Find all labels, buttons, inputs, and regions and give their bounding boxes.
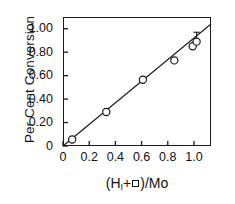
x-axis-title-plus: + [123,175,131,191]
y-tick-label: 0.40 [0,93,58,106]
chart-figure: Per Cent Conversion 00.200.400.600.801.0… [0,0,235,204]
data-point-marker [69,136,76,143]
plot-data-layer [63,17,211,146]
y-tick-label: 0.20 [0,116,58,129]
y-tick-label: 1.00 [0,22,58,35]
data-point-marker [193,38,200,45]
x-tick-label: 0.8 [159,151,176,164]
x-axis-title-open: (H [106,175,121,191]
x-axis-title: (HI+)/Mo [63,175,211,192]
data-point-marker [139,76,146,83]
fit-line [63,24,211,146]
x-tick-label: 0.2 [80,151,97,164]
x-tick-label: 0.6 [133,151,150,164]
y-tick-label: 0 [0,140,58,153]
data-point-marker [103,108,110,115]
x-tick-label: 0.4 [107,151,124,164]
square-symbol-icon [132,180,139,187]
x-axis-title-close: )/Mo [140,175,168,191]
x-tick-label: 0 [60,151,67,164]
y-tick-label: 0.60 [0,69,58,82]
data-point-marker [171,57,178,64]
x-tick-label: 1.0 [185,151,202,164]
y-tick-label: 0.80 [0,46,58,59]
